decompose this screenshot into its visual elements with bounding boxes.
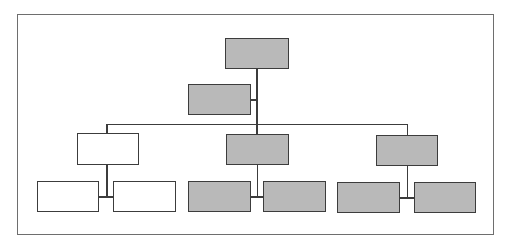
connector-middle-stem bbox=[257, 165, 259, 197]
connector-middle-bar bbox=[251, 196, 263, 198]
node-staff-middle-1[interactable] bbox=[188, 181, 251, 212]
connector-top-trunk bbox=[256, 68, 258, 125]
node-staff-left-2[interactable] bbox=[113, 181, 176, 212]
connector-right-bar bbox=[400, 197, 414, 199]
connector-left-stem bbox=[106, 165, 108, 197]
node-label bbox=[415, 183, 475, 212]
node-staff-left-1[interactable] bbox=[37, 181, 99, 212]
node-label bbox=[189, 85, 250, 114]
node-label bbox=[189, 182, 250, 211]
node-manager-middle[interactable] bbox=[226, 134, 289, 165]
connector-right-stem bbox=[407, 166, 409, 198]
node-label bbox=[377, 136, 437, 165]
node-label bbox=[38, 182, 98, 211]
node-label bbox=[227, 135, 288, 164]
connector-assistant bbox=[251, 99, 257, 101]
node-manager-right[interactable] bbox=[376, 135, 438, 166]
node-staff-right-1[interactable] bbox=[337, 182, 400, 213]
connector-left-bar bbox=[99, 196, 113, 198]
node-staff-right-2[interactable] bbox=[414, 182, 476, 213]
node-label bbox=[338, 183, 399, 212]
connector-left-drop bbox=[106, 124, 108, 133]
node-label bbox=[264, 182, 325, 211]
node-label bbox=[226, 39, 288, 68]
node-staff-middle-2[interactable] bbox=[263, 181, 326, 212]
connector-right-drop bbox=[407, 124, 409, 135]
node-label bbox=[114, 182, 175, 211]
node-label bbox=[78, 134, 138, 164]
node-top[interactable] bbox=[225, 38, 289, 69]
connector-middle-drop bbox=[256, 124, 258, 134]
node-manager-left[interactable] bbox=[77, 133, 139, 165]
node-assistant[interactable] bbox=[188, 84, 251, 115]
